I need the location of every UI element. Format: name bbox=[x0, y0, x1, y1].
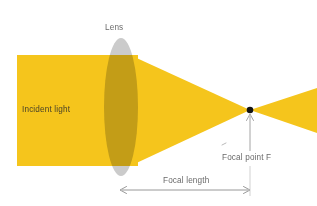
focal-point-dot bbox=[247, 107, 254, 114]
optics-diagram: Lens Incident light Focal point F Focal … bbox=[0, 0, 317, 206]
lens-group bbox=[104, 38, 138, 176]
lens-label: Lens bbox=[105, 23, 123, 32]
incident-light-label: Incident light bbox=[22, 105, 71, 114]
lens-glass bbox=[104, 38, 138, 176]
optics-diagram-canvas: Lens Incident light Focal point F Focal … bbox=[0, 0, 317, 206]
focal-point-label: Focal point F bbox=[222, 153, 271, 162]
focal-length-label: Focal length bbox=[163, 176, 210, 185]
